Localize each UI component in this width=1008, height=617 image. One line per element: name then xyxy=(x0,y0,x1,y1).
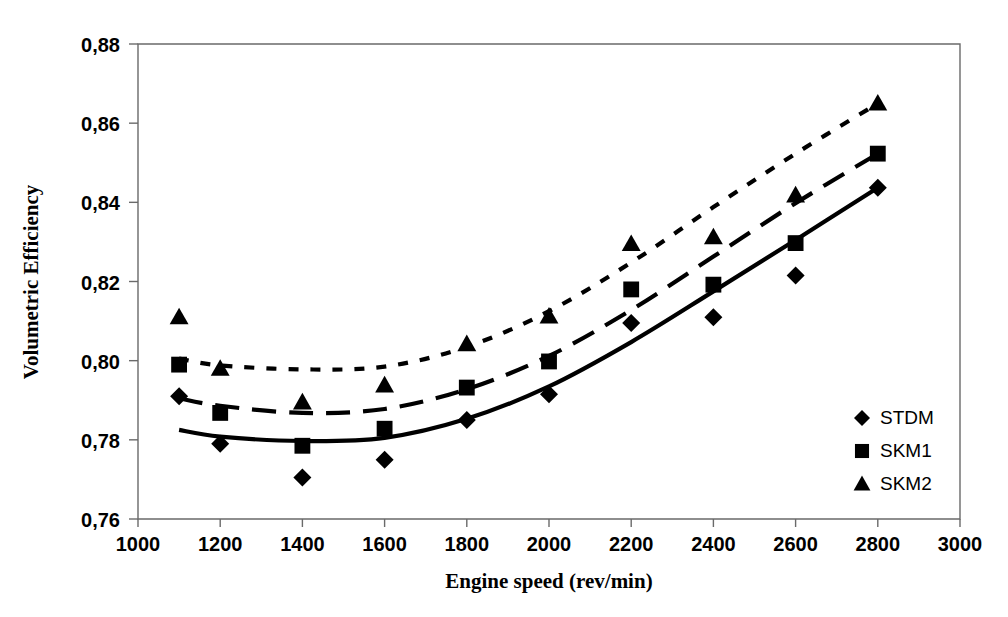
x-axis-ticks xyxy=(138,519,960,527)
data-point-stdm xyxy=(293,468,311,486)
plot-border xyxy=(138,44,960,519)
data-point-stdm xyxy=(458,411,476,429)
x-axis-tick-labels: 1000120014001600180020002200240026002800… xyxy=(116,533,983,555)
trend-line-stdm xyxy=(179,188,878,441)
data-point-skm2 xyxy=(540,307,559,324)
data-point-skm2 xyxy=(868,94,887,111)
legend-marker-stdm xyxy=(854,410,870,426)
x-axis-title: Engine speed (rev/min) xyxy=(445,569,652,593)
legend-marker-skm1 xyxy=(855,444,869,458)
legend-label-skm2: SKM2 xyxy=(880,473,932,494)
legend-label-stdm: STDM xyxy=(880,407,934,428)
x-tick-label: 2800 xyxy=(856,533,901,555)
y-axis-title: Volumetric Efficiency xyxy=(19,184,43,379)
x-tick-label: 2200 xyxy=(609,533,654,555)
y-tick-label: 0,76 xyxy=(81,509,120,531)
legend-label-skm1: SKM1 xyxy=(880,440,932,461)
chart-legend: STDMSKM1SKM2 xyxy=(854,407,934,494)
data-point-skm2 xyxy=(786,186,805,203)
data-point-skm1 xyxy=(377,421,393,437)
y-axis-ticks xyxy=(129,44,138,519)
data-point-skm1 xyxy=(541,354,557,370)
x-tick-label: 1400 xyxy=(280,533,325,555)
y-tick-label: 0,78 xyxy=(81,430,120,452)
x-tick-label: 1600 xyxy=(362,533,407,555)
data-point-skm2 xyxy=(170,308,189,325)
data-point-skm2 xyxy=(375,376,394,393)
x-tick-label: 2400 xyxy=(691,533,736,555)
x-tick-label: 3000 xyxy=(938,533,983,555)
y-tick-label: 0,82 xyxy=(81,272,120,294)
series-trend-lines xyxy=(179,103,878,441)
data-point-skm1 xyxy=(623,281,639,297)
y-tick-label: 0,84 xyxy=(81,192,121,214)
plot-frame xyxy=(138,44,960,519)
legend-marker-skm2 xyxy=(854,476,871,491)
data-point-skm2 xyxy=(457,335,476,352)
trend-line-skm2 xyxy=(179,103,878,369)
x-tick-label: 1200 xyxy=(198,533,243,555)
data-point-skm2 xyxy=(293,393,312,410)
data-point-skm2 xyxy=(704,228,723,245)
data-point-skm1 xyxy=(294,438,310,454)
series-data-markers xyxy=(170,94,888,487)
data-point-skm1 xyxy=(705,277,721,293)
data-point-stdm xyxy=(170,387,188,405)
x-tick-label: 1800 xyxy=(445,533,490,555)
data-point-skm1 xyxy=(788,235,804,251)
volumetric-efficiency-chart: 1000120014001600180020002200240026002800… xyxy=(0,0,1008,617)
data-point-skm1 xyxy=(212,405,228,421)
y-tick-label: 0,80 xyxy=(81,351,120,373)
data-point-stdm xyxy=(787,267,805,285)
trend-line-skm1 xyxy=(179,154,878,413)
data-point-skm1 xyxy=(171,357,187,373)
x-tick-label: 1000 xyxy=(116,533,161,555)
data-point-stdm xyxy=(376,451,394,469)
data-point-skm2 xyxy=(622,234,641,251)
y-tick-label: 0,88 xyxy=(81,34,120,56)
y-axis-tick-labels: 0,760,780,800,820,840,860,88 xyxy=(81,34,121,531)
y-tick-label: 0,86 xyxy=(81,113,120,135)
x-tick-label: 2000 xyxy=(527,533,572,555)
data-point-stdm xyxy=(622,314,640,332)
data-point-skm1 xyxy=(870,146,886,162)
chart-container: 1000120014001600180020002200240026002800… xyxy=(0,0,1008,617)
x-tick-label: 2600 xyxy=(773,533,818,555)
data-point-skm1 xyxy=(459,380,475,396)
data-point-stdm xyxy=(704,308,722,326)
